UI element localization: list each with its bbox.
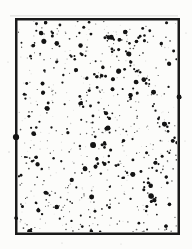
starfield-photo-canvas [0,0,192,249]
scan-page [0,0,192,249]
